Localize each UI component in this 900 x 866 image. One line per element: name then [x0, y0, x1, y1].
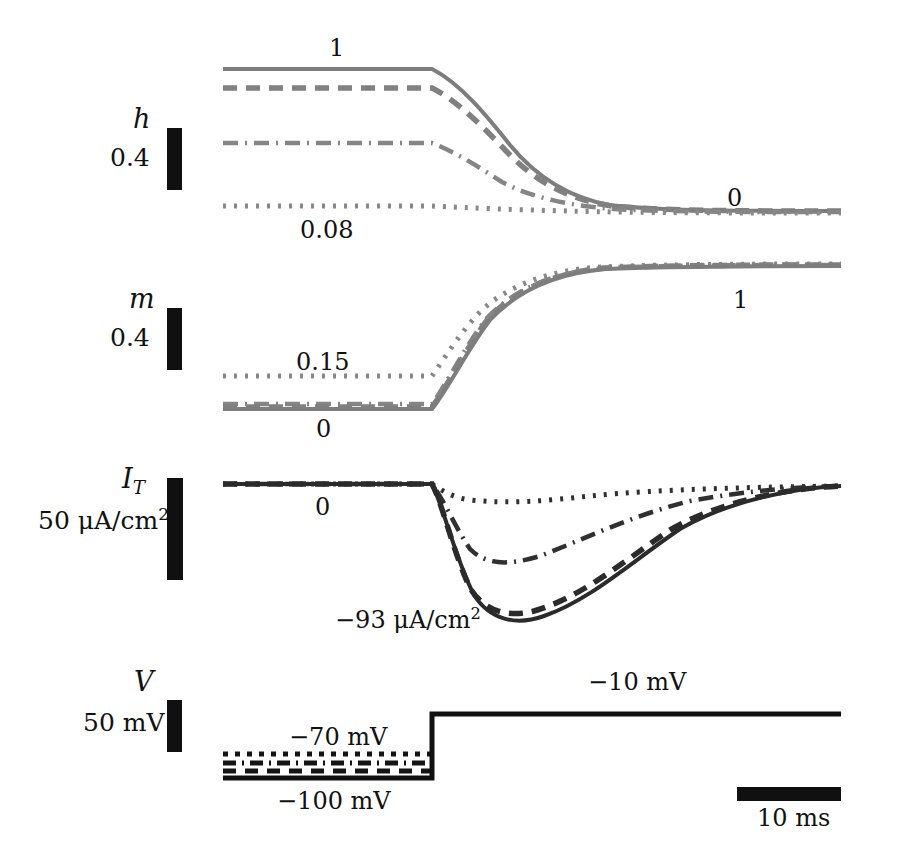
time-scale-bar	[737, 787, 841, 801]
v-panel-var-label: V	[134, 668, 154, 695]
it-label-peak: −93 μA/cm2	[335, 608, 481, 632]
v-panel-scale-bar	[167, 700, 182, 752]
m-label-zero: 0	[316, 417, 331, 441]
it-var-symbol: I	[122, 463, 133, 494]
v-label-minus70: −70 mV	[289, 725, 387, 749]
it-panel-scale-bar	[167, 478, 183, 580]
it-panel-var-label: IT	[122, 465, 145, 492]
h-label-one: 1	[329, 36, 344, 60]
v-panel-scale-label: 50 mV	[83, 710, 165, 735]
m-trace-solid	[223, 266, 841, 409]
it-peak-text: −93 μA/cm	[335, 606, 471, 634]
it-scale-text: 50 μA/cm	[38, 506, 158, 535]
h-label-zero: 0	[727, 186, 742, 210]
time-scale-label: 10 ms	[757, 806, 830, 830]
h-panel-var-label: h	[133, 105, 150, 132]
m-panel-var-label: m	[129, 285, 155, 312]
m-label-one: 1	[733, 288, 748, 312]
h-label-008: 0.08	[300, 218, 353, 242]
m-panel-scale-label: 0.4	[110, 325, 150, 350]
m-panel-traces	[223, 264, 841, 409]
v-label-minus100: −100 mV	[277, 789, 391, 813]
it-peak-exponent: 2	[471, 604, 481, 623]
h-panel-traces	[223, 69, 841, 213]
m-trace-dashed	[223, 265, 841, 407]
m-panel-scale-bar	[167, 308, 182, 370]
it-label-zero: 0	[315, 495, 330, 519]
m-label-015: 0.15	[296, 350, 349, 374]
it-var-subscript: T	[133, 477, 145, 498]
h-panel-scale-label: 0.4	[110, 145, 150, 170]
h-trace-dashdot	[223, 143, 841, 212]
figure-root: h 0.4 1 0 0.08 m 0.4 1 0.15 0 IT 50 μA/c…	[0, 0, 900, 866]
it-panel-scale-label: 50 μA/cm2	[38, 508, 169, 533]
h-panel-scale-bar	[167, 128, 182, 190]
v-label-minus10: −10 mV	[588, 670, 686, 694]
